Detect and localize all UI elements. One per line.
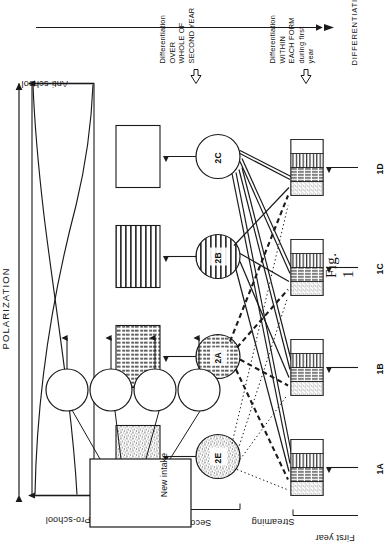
- polarization-label: POLARIZATION: [0, 267, 11, 349]
- second-year-boxes-group: [116, 125, 160, 487]
- second-year-label: Second year: [159, 518, 212, 528]
- second-year-circles-group: [196, 134, 240, 478]
- pro-school-label: Pro-school: [45, 514, 90, 524]
- annotation-pointer-icons: [191, 69, 311, 83]
- second-year-arrows: [166, 156, 196, 456]
- first-year-box-1D: [291, 139, 323, 195]
- second-year-bracket: [120, 503, 240, 509]
- first-year-arrows: [329, 167, 358, 467]
- second-year-circle-label-2E: 2E: [213, 452, 223, 463]
- first-year-circle-label-1B: 1B: [375, 363, 385, 374]
- first-year-label: First year: [315, 532, 355, 542]
- second-year-circle-label-2C: 2C: [213, 152, 223, 163]
- second-year-box-2A: [116, 325, 160, 387]
- differentiation-axis-label: DIFFERENTIATION: [350, 0, 359, 65]
- second-year-circle-label-2A: 2A: [213, 352, 223, 363]
- pro-school-curve: [35, 84, 93, 494]
- anti-school-label: Anti-school: [21, 78, 68, 88]
- first-year-box-1B: [291, 339, 323, 395]
- year-brackets: [120, 503, 358, 515]
- second-year-box-2E: [116, 425, 160, 487]
- second-year-box-2B: [116, 225, 160, 287]
- first-year-circle-label-1C: 1C: [375, 263, 385, 274]
- first-year-annotation-arrow-icon: [301, 69, 311, 83]
- first-year-bracket: [293, 509, 358, 515]
- first-year-box-1C: [291, 239, 323, 295]
- polarization-chart-frame: [32, 83, 94, 495]
- second-year-annotation-arrow-icon: [191, 69, 201, 83]
- first-year-circle-label-1D: 1D: [375, 163, 385, 174]
- first-year-box-1A: [291, 439, 323, 495]
- first-year-boxes-group: [291, 139, 323, 495]
- second-year-circle-label-2B: 2B: [213, 252, 223, 263]
- second-year-annotation: Differentiation OVER WHOLE OF SECOND YEA…: [158, 0, 196, 63]
- polarization-panel: [19, 80, 94, 498]
- streaming-label: Streaming: [252, 517, 295, 527]
- anti-school-curve: [33, 84, 77, 494]
- new-intake-label: New intake: [159, 445, 169, 505]
- second-year-box-2C: [116, 125, 160, 187]
- streaming-network: [230, 150, 293, 489]
- first-year-circle-label-1A: 1A: [375, 463, 385, 474]
- figure-caption: Fig. 1: [323, 242, 357, 278]
- first-year-annotation: Differentiation WITHIN EACH FORM during …: [268, 0, 316, 63]
